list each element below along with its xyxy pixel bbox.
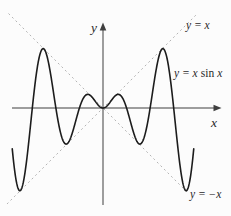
y-axis-arrowhead-icon (100, 23, 107, 31)
figure-x-sin-x: y x y = x y = xsinx y = −x (0, 0, 231, 216)
annotation-y-equals-negative-x: y = −x (189, 188, 222, 201)
x-axis-arrowhead-icon (214, 105, 222, 112)
envelope-line-y-equals-negative-x (9, 14, 188, 193)
y-axis-label: y (89, 20, 97, 35)
annotation-curve-prefix: y = x (173, 67, 199, 80)
plot-canvas: y x y = x y = xsinx y = −x (0, 0, 231, 216)
x-axis-label: x (210, 115, 217, 130)
annotation-curve-suffix: x (216, 67, 223, 79)
annotation-y-equals-x: y = x (185, 19, 211, 32)
annotation-y-equals-x-sin-x: y = xsinx (173, 67, 223, 80)
annotation-curve-fn: sin (201, 67, 215, 79)
envelope-line-y-equals-x (7, 14, 198, 205)
